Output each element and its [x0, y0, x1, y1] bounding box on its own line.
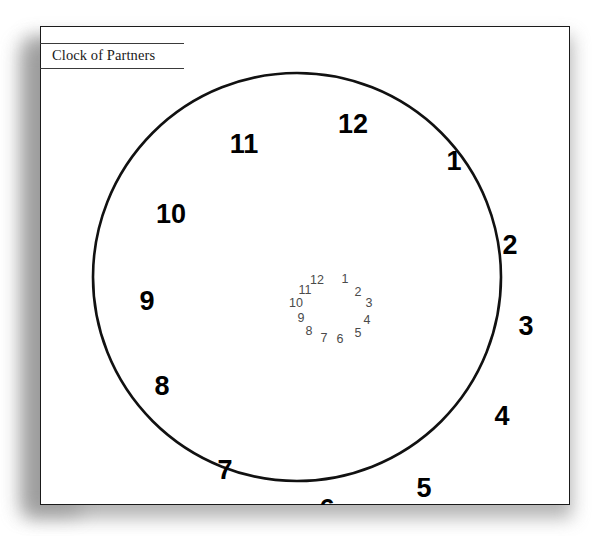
- outer-hour-number-9: 9: [139, 286, 154, 316]
- inner-hour-number-7: 7: [321, 331, 328, 345]
- inner-hour-number-3: 3: [366, 296, 373, 310]
- outer-hour-number-11: 11: [230, 129, 259, 159]
- inner-hour-number-10: 10: [289, 296, 303, 310]
- outer-hour-number-2: 2: [502, 230, 517, 260]
- inner-hour-number-9: 9: [298, 311, 305, 325]
- outer-hour-number-3: 3: [518, 311, 533, 341]
- title-block: Clock of Partners: [40, 26, 184, 70]
- title-rule-top: [40, 43, 184, 44]
- inner-hour-number-11: 11: [299, 283, 312, 297]
- outer-hour-number-5: 5: [416, 473, 431, 503]
- title-rule-bottom: [40, 68, 184, 69]
- inner-hour-number-5: 5: [355, 326, 362, 340]
- clock-diagram: 121234567891011 121234567891011: [40, 26, 570, 505]
- inner-hour-number-4: 4: [364, 313, 371, 327]
- page-title: Clock of Partners: [52, 47, 155, 64]
- outer-hour-number-4: 4: [494, 401, 509, 431]
- inner-hour-number-8: 8: [306, 324, 313, 338]
- outer-hour-number-1: 1: [446, 146, 461, 176]
- inner-hour-number-12: 12: [310, 273, 324, 287]
- outer-hour-number-8: 8: [154, 371, 169, 401]
- outer-hour-number-7: 7: [217, 455, 232, 485]
- inner-hour-number-2: 2: [355, 285, 362, 299]
- inner-hour-number-6: 6: [337, 332, 344, 346]
- page-root: 121234567891011 121234567891011 Clock of…: [0, 0, 602, 536]
- outer-hour-number-10: 10: [156, 199, 186, 229]
- clock-circle-outline: [93, 73, 501, 481]
- outer-hour-number-6: 6: [319, 494, 334, 505]
- clock-svg: 121234567891011 121234567891011: [40, 26, 570, 505]
- outer-hour-number-12: 12: [338, 109, 368, 139]
- inner-hour-number-1: 1: [342, 272, 349, 286]
